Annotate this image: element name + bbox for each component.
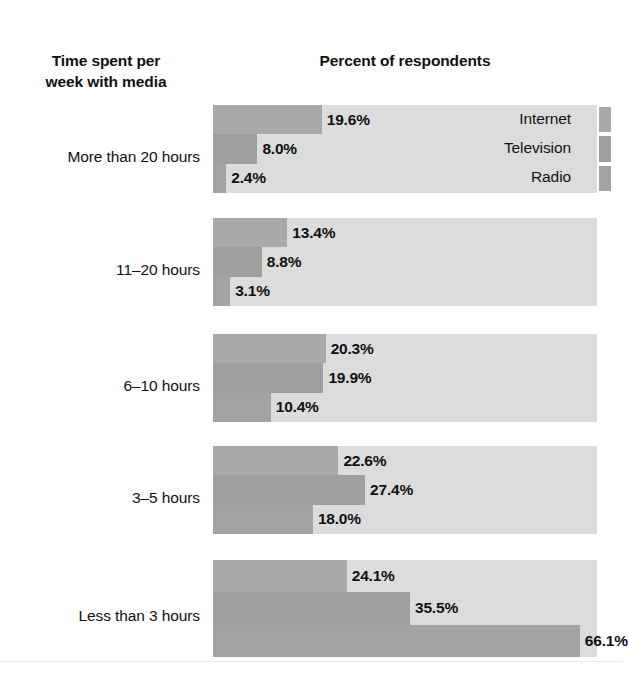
bar-television <box>213 134 257 163</box>
chart-title: Percent of respondents <box>213 50 597 71</box>
bar-value-label: 8.8% <box>262 253 302 271</box>
group-panel: 24.1%35.5%66.1% <box>213 560 597 657</box>
bar-value-label: 3.1% <box>230 282 270 300</box>
bar-internet <box>213 334 326 363</box>
bar-value-label: 10.4% <box>271 398 319 416</box>
bar-value-label: 35.5% <box>410 599 458 617</box>
category-label: Less than 3 hours <box>0 607 200 625</box>
scan-artifact <box>0 661 623 662</box>
bar-value-label: 8.0% <box>257 140 297 158</box>
bar-internet <box>213 105 322 134</box>
category-label: 6–10 hours <box>0 377 200 395</box>
bar-value-label: 13.4% <box>287 224 335 242</box>
bar-radio <box>213 277 230 306</box>
category-label: More than 20 hours <box>0 148 200 166</box>
bar-radio <box>213 505 313 534</box>
bar-value-label: 27.4% <box>365 481 413 499</box>
bar-row: 18.0% <box>213 505 597 534</box>
left-axis-title-line1: Time spent per <box>8 50 204 71</box>
legend-key-television <box>599 136 611 161</box>
group-panel: 22.6%27.4%18.0% <box>213 446 597 534</box>
legend-label-radio: Radio <box>531 168 571 186</box>
bar-row: 8.8% <box>213 247 597 276</box>
bar-row: 35.5% <box>213 592 597 624</box>
bar-row: 3.1% <box>213 277 597 306</box>
bar-radio <box>213 164 226 193</box>
bar-radio <box>213 393 271 422</box>
legend-key-internet <box>599 107 611 132</box>
bar-value-label: 2.4% <box>226 169 266 187</box>
left-axis-title: Time spent per week with media <box>8 50 204 92</box>
legend-label-internet: Internet <box>519 110 571 128</box>
left-axis-title-line2: week with media <box>8 71 204 92</box>
bar-row: 24.1% <box>213 560 597 592</box>
bar-internet <box>213 446 338 475</box>
bar-internet <box>213 560 347 592</box>
bar-value-label: 66.1% <box>580 632 628 650</box>
bar-row: 20.3% <box>213 334 597 363</box>
bar-value-label: 19.9% <box>323 369 371 387</box>
bar-internet <box>213 218 287 247</box>
bar-row: 10.4% <box>213 393 597 422</box>
bar-value-label: 18.0% <box>313 510 361 528</box>
group-panel: 20.3%19.9%10.4% <box>213 334 597 422</box>
legend-label-television: Television <box>504 139 571 157</box>
category-label: 11–20 hours <box>0 261 200 279</box>
bar-radio <box>213 625 580 657</box>
bar-value-label: 20.3% <box>326 340 374 358</box>
bar-television <box>213 475 365 504</box>
bar-row: 22.6% <box>213 446 597 475</box>
bar-value-label: 19.6% <box>322 111 370 129</box>
group-panel: 13.4%8.8%3.1% <box>213 218 597 306</box>
group-panel: 19.6%8.0%2.4%InternetTelevisionRadio <box>213 105 597 193</box>
bar-value-label: 24.1% <box>347 567 395 585</box>
bar-television <box>213 592 410 624</box>
bar-row: 13.4% <box>213 218 597 247</box>
bar-television <box>213 363 323 392</box>
bar-value-label: 22.6% <box>338 452 386 470</box>
bar-row: 27.4% <box>213 475 597 504</box>
legend <box>599 105 611 193</box>
bar-row: 19.9% <box>213 363 597 392</box>
legend-key-radio <box>599 166 611 191</box>
category-label: 3–5 hours <box>0 489 200 507</box>
bar-television <box>213 247 262 276</box>
bar-row: 66.1% <box>213 625 597 657</box>
